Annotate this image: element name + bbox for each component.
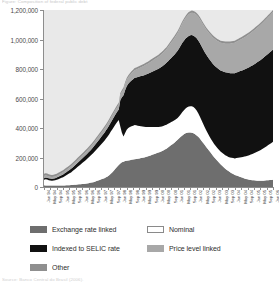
x-axis-label: Sep 00 [173,190,178,203]
legend-item[interactable]: Nominal [147,226,194,233]
x-axis-label: May 01 [186,190,191,204]
legend-item[interactable]: Price level linked [147,245,221,252]
x-axis-label: Sep 99 [154,190,159,203]
x-axis-label: Sep 97 [116,190,121,203]
y-axis-label: 0 [35,184,38,191]
x-axis-label: Jan 98 [122,190,127,203]
x-axis-label: May 96 [90,190,95,204]
figure-caption-bottom: Source: Banco Central do Brasil (2006). [2,277,222,284]
x-axis-label: Sep 95 [77,190,82,203]
legend-swatch-icon [30,264,47,271]
x-axis-label: Sep 02 [211,190,216,203]
x-axis-label: Sep 01 [192,190,197,203]
y-axis-label: 200,000 [16,154,38,161]
x-axis-label: Jan 00 [160,190,165,203]
y-axis-label: 1,200,000 [10,7,38,14]
legend-label: Indexed to SELIC rate [52,245,120,252]
stacked-area-series [44,10,273,187]
y-axis-label: 1,000,000 [10,36,38,43]
x-axis-label: Jan 94 [46,190,51,203]
x-axis-label: May 95 [71,190,76,204]
x-axis-label: May 05 [262,190,267,204]
legend-item[interactable]: Indexed to SELIC rate [30,245,120,252]
x-axis-label: Jan 01 [179,190,184,203]
legend-swatch-icon [30,226,47,233]
x-axis-label: Sep 94 [58,190,63,203]
x-axis-label: Sep 96 [96,190,101,203]
y-axis-label: 800,000 [16,66,38,73]
legend-label: Price level linked [169,245,221,252]
legend-swatch-icon [147,245,164,252]
x-axis-label: Sep 98 [135,190,140,203]
x-axis-label: May 98 [128,190,133,204]
x-axis-label: May 97 [109,190,114,204]
x-axis-label: Jan 03 [217,190,222,203]
x-axis-label: Jan 96 [84,190,89,203]
chart-legend: Exchange rate linkedNominalIndexed to SE… [30,226,272,274]
x-axis-label: Sep 04 [249,190,254,203]
x-axis-label: May 04 [243,190,248,204]
x-axis-label: Jan 95 [65,190,70,203]
x-axis-label: May 03 [224,190,229,204]
chart-figure: Figure: Composition of federal public de… [0,0,279,285]
legend-swatch-icon [30,245,47,252]
x-axis-label: Jan 97 [103,190,108,203]
legend-label: Other [52,264,69,271]
x-axis-label: May 00 [166,190,171,204]
legend-label: Exchange rate linked [52,226,116,233]
legend-label: Nominal [169,226,194,233]
y-axis-label: 400,000 [16,125,38,132]
x-axis-label: May 94 [52,190,57,204]
legend-swatch-icon [147,226,164,233]
y-axis-label: 600,000 [16,95,38,102]
legend-item[interactable]: Other [30,264,69,271]
figure-caption-top: Figure: Composition of federal public de… [2,0,212,6]
x-axis-label: Jan 04 [236,190,241,203]
legend-item[interactable]: Exchange rate linked [30,226,116,233]
plot-area [44,10,273,187]
x-axis-label: Sep 05 [268,190,273,203]
x-axis-label: May 02 [205,190,210,204]
x-axis-label: Sep 03 [230,190,235,203]
y-axis: 0200,000400,000600,000800,0001,000,0001,… [0,10,42,187]
x-axis-label: Jan 06 [275,190,279,203]
x-axis-label: May 99 [147,190,152,204]
x-axis-label: Jan 05 [256,190,261,203]
x-axis-label: Jan 02 [198,190,203,203]
x-axis-labels: Jan 94May 94Sep 94Jan 95May 95Sep 95Jan … [44,190,276,224]
x-axis-label: Jan 99 [141,190,146,203]
